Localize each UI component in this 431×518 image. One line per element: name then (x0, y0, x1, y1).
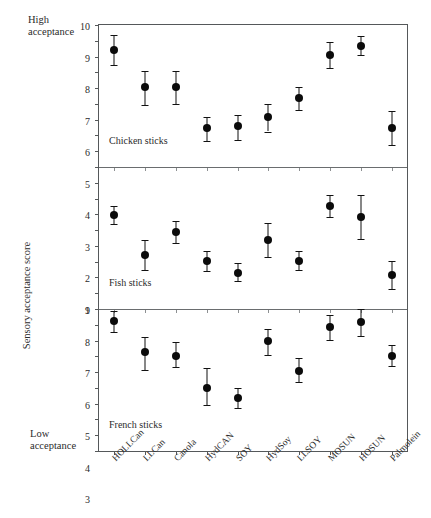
error-cap-lower (234, 408, 241, 409)
error-cap-upper (265, 223, 272, 224)
y-tick-label: 8 (85, 336, 90, 347)
y-tick: 3 (95, 135, 99, 136)
error-cap-upper (265, 329, 272, 330)
error-cap-lower (265, 355, 272, 356)
y-tick-label: 4 (85, 462, 90, 473)
y-tick-label: 6 (85, 399, 90, 410)
y-tick: 8 (95, 57, 99, 58)
low-acceptance-label: Low acceptance (30, 428, 76, 451)
marker (141, 251, 149, 259)
error-cap-upper (142, 240, 149, 241)
error-cap-upper (142, 337, 149, 338)
y-tick: 7 (95, 199, 99, 200)
y-tick: 9 (95, 167, 99, 168)
error-cap-lower (111, 332, 118, 333)
y-tick: 0 (95, 451, 99, 452)
error-cap-upper (203, 117, 210, 118)
data-point (351, 309, 371, 451)
y-tick: 4 (95, 246, 99, 247)
error-cap-lower (203, 141, 210, 142)
y-tick: 6 (95, 88, 99, 89)
y-tick: 1 (95, 293, 99, 294)
marker (264, 113, 272, 121)
error-cap-lower (388, 366, 395, 367)
data-point (351, 167, 371, 309)
marker (234, 269, 242, 277)
error-cap-lower (203, 405, 210, 406)
marker (388, 352, 396, 360)
y-tick: 9 (95, 41, 99, 42)
error-cap-lower (327, 68, 334, 69)
marker (203, 124, 211, 132)
error-cap-lower (234, 140, 241, 141)
marker (326, 51, 334, 59)
error-cap-upper (173, 342, 180, 343)
y-tick: 8 (95, 325, 99, 326)
data-point (382, 309, 402, 451)
marker (295, 94, 303, 102)
marker (295, 367, 303, 375)
error-cap-lower (203, 271, 210, 272)
data-point (228, 167, 248, 309)
data-point (258, 167, 278, 309)
error-cap-upper (357, 36, 364, 37)
y-tick: 3 (95, 262, 99, 263)
data-point (135, 167, 155, 309)
y-tick-label: 9 (85, 52, 90, 63)
y-tick: 9 (95, 309, 99, 310)
marker (388, 271, 396, 279)
marker (357, 42, 365, 50)
y-tick: 5 (95, 372, 99, 373)
data-point (104, 309, 124, 451)
marker (203, 384, 211, 392)
marker (203, 257, 211, 265)
error-cap-lower (111, 224, 118, 225)
plot-frame: 10987654321Chicken sticks9876543210Fish … (98, 24, 408, 452)
error-cap-upper (234, 263, 241, 264)
marker (326, 202, 334, 210)
y-tick: 6 (95, 214, 99, 215)
error-cap-lower (265, 132, 272, 133)
error-cap-lower (327, 340, 334, 341)
data-point (197, 167, 217, 309)
y-tick-label: 5 (85, 178, 90, 189)
marker (110, 211, 118, 219)
error-cap-lower (388, 289, 395, 290)
data-point (289, 309, 309, 451)
y-tick-label: 4 (85, 210, 90, 221)
marker (110, 46, 118, 54)
y-tick: 4 (95, 120, 99, 121)
error-cap-upper (111, 311, 118, 312)
marker (264, 337, 272, 345)
data-point (104, 167, 124, 309)
data-point (135, 25, 155, 167)
marker (357, 318, 365, 326)
error-cap-lower (111, 65, 118, 66)
error-cap-lower (234, 281, 241, 282)
error-cap-upper (388, 345, 395, 346)
marker (326, 323, 334, 331)
y-tick: 6 (95, 356, 99, 357)
y-tick-label: 8 (85, 84, 90, 95)
error-cap-upper (388, 111, 395, 112)
error-cap-lower (173, 243, 180, 244)
error-cap-lower (357, 336, 364, 337)
y-tick: 1 (95, 435, 99, 436)
error-cap-lower (296, 382, 303, 383)
error-cap-lower (357, 55, 364, 56)
y-tick-label: 5 (85, 431, 90, 442)
error-cap-lower (142, 105, 149, 106)
error-cap-upper (357, 195, 364, 196)
error-cap-upper (388, 261, 395, 262)
error-cap-lower (265, 257, 272, 258)
marker (357, 213, 365, 221)
data-point (289, 167, 309, 309)
y-tick-label: 3 (85, 241, 90, 252)
error-cap-lower (357, 239, 364, 240)
error-cap-upper (111, 35, 118, 36)
error-cap-upper (234, 115, 241, 116)
data-point (258, 309, 278, 451)
error-cap-upper (265, 104, 272, 105)
marker (141, 348, 149, 356)
data-point (320, 25, 340, 167)
